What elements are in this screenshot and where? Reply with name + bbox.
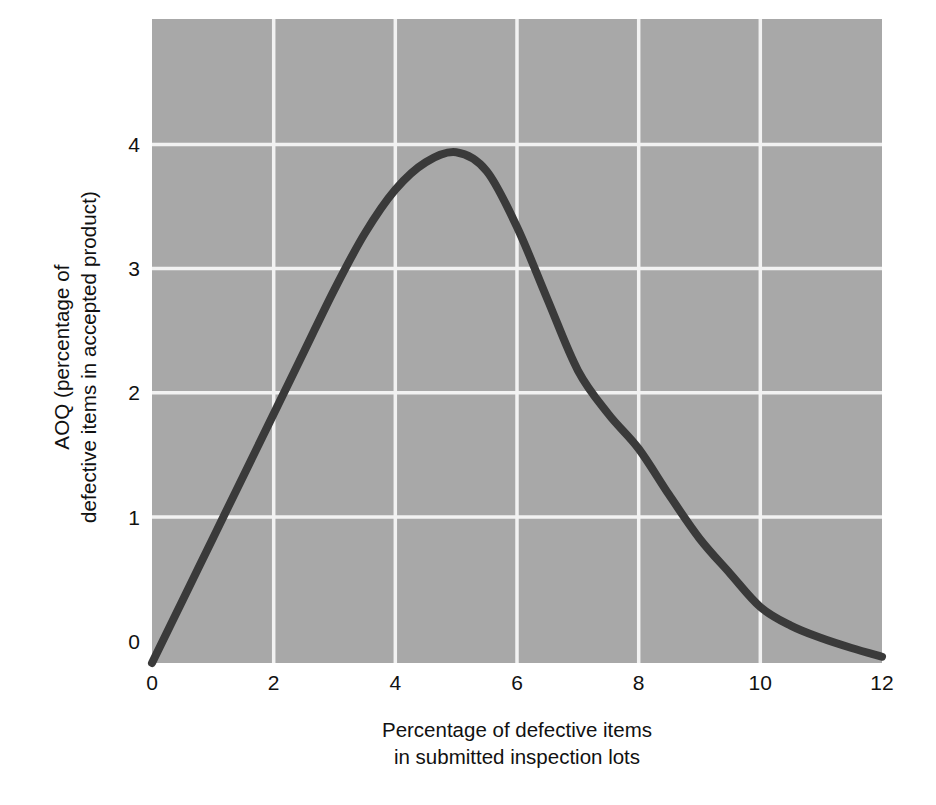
x-tick-label-10: 10 <box>730 672 790 693</box>
x-tick-label-0: 0 <box>122 672 182 693</box>
x-tick-label-4: 4 <box>365 672 425 693</box>
x-tick-label-6: 6 <box>487 672 547 693</box>
x-axis-title-line-1: Percentage of defective items <box>152 716 882 743</box>
x-tick-label-2: 2 <box>244 672 304 693</box>
x-axis-title: Percentage of defective items in submitt… <box>152 716 882 770</box>
aoq-chart-figure: AOQ (percentage of defective items in ac… <box>0 0 936 805</box>
x-axis-title-line-2: in submitted inspection lots <box>152 743 882 770</box>
x-tick-label-12: 12 <box>852 672 912 693</box>
x-tick-label-8: 8 <box>609 672 669 693</box>
x-axis-tick-labels: 0 2 4 6 8 10 12 <box>0 0 936 805</box>
